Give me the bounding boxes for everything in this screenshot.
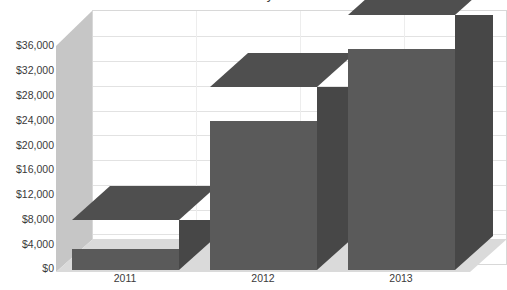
bar-front-face [210, 121, 317, 270]
y-tick-label: $24,000 [0, 115, 54, 126]
bar-front-face [348, 49, 455, 270]
chart-container: Revenue by Year $36,000 $32,000 $28,000 … [0, 0, 507, 290]
y-tick-label: $16,000 [0, 164, 54, 175]
y-tick-label: $36,000 [0, 40, 54, 51]
y-tick-label: $28,000 [0, 90, 54, 101]
x-tick-label: 2012 [228, 272, 298, 285]
y-tick-label: $20,000 [0, 140, 54, 151]
bar-2011[interactable] [72, 220, 217, 270]
y-tick-label: $8,000 [0, 214, 54, 225]
bar-side-face [455, 15, 493, 270]
x-tick-label: 2011 [90, 272, 160, 285]
x-axis: 2011 2012 2013 [0, 272, 507, 288]
y-axis: $36,000 $32,000 $28,000 $24,000 $20,000 … [0, 0, 54, 290]
bar-2012[interactable] [210, 87, 355, 270]
bar-front-face [72, 249, 179, 270]
y-tick-label: $12,000 [0, 189, 54, 200]
bar-2013[interactable] [348, 15, 493, 270]
x-tick-label: 2013 [366, 272, 436, 285]
plot-area [56, 8, 507, 270]
y-tick-label: $4,000 [0, 239, 54, 250]
y-tick-label: $32,000 [0, 65, 54, 76]
